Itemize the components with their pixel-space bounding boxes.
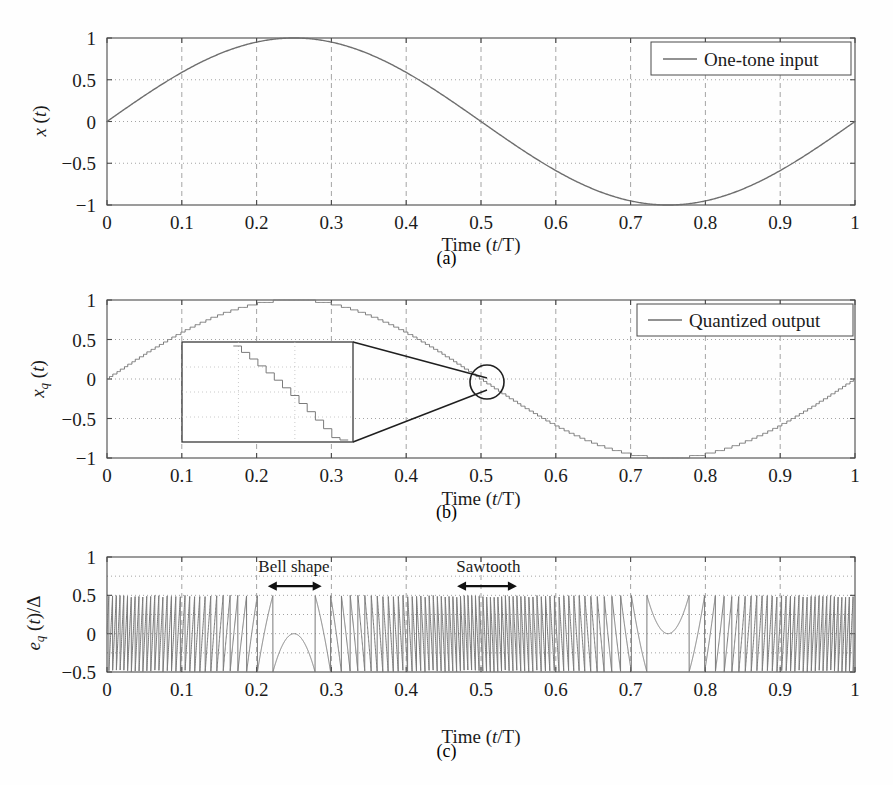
ytick-label: 0 [87,624,97,645]
panel-c-annotation-label: Bell shape [258,557,329,576]
xtick-label: 0 [102,212,112,233]
xtick-label: 0.3 [320,679,344,700]
xtick-label: 0.8 [694,465,718,486]
panel-a-y-axis-tail: ( [29,117,51,128]
xtick-label: 0.7 [619,679,643,700]
xtick-label: 0.6 [544,465,568,486]
ytick-label: −0.5 [62,153,96,174]
panel-a-xtick-labels: 00.10.20.30.40.50.60.70.80.91 [102,212,860,233]
panel-c-xtick-labels: 00.10.20.30.40.50.60.70.80.91 [102,679,860,700]
panel-b-y-axis-label: xq (t) [27,360,51,399]
ytick-label: 0.5 [72,330,96,351]
xtick-label: 0.4 [394,212,418,233]
panel-b-legend[interactable]: Quantized output [637,304,853,336]
xtick-label: 0.6 [544,212,568,233]
xtick-label: 0.6 [544,679,568,700]
xtick-label: 0 [102,465,112,486]
ytick-label: −1 [76,448,96,469]
ytick-label: −1 [76,195,96,216]
panel-b-legend-label: Quantized output [689,310,821,331]
xtick-label: 0.3 [320,465,344,486]
xtick-label: 0.9 [768,465,792,486]
ytick-label: 0 [87,112,97,133]
xtick-label: 1 [850,212,860,233]
ytick-label: 0.5 [72,585,96,606]
panel-c-ytick-labels: 10.50−0.5 [62,547,96,683]
xtick-label: 0.7 [619,465,643,486]
panel-c-annotation-label: Sawtooth [456,557,521,576]
panel-a: 10.50−0.5−1 00.10.20.30.40.50.60.70.80.9… [0,0,893,270]
panel-c-y-axis-label: eq (t)/Δ [23,595,47,650]
panel-c-annotations: Bell shapeSawtooth [258,557,521,590]
panel-b: 10.50−0.5−1 00.10.20.30.40.50.60.70.80.9… [0,262,893,534]
panel-a-ytick-labels: 10.50−0.5−1 [62,28,96,216]
xtick-label: 0.8 [694,212,718,233]
ytick-label: 1 [87,28,97,49]
xtick-label: 0.8 [694,679,718,700]
xtick-label: 0.3 [320,212,344,233]
xtick-label: 0.1 [170,212,194,233]
panel-b-callout-upper-line [353,342,487,378]
ytick-label: 1 [87,290,97,311]
xtick-label: 1 [850,679,860,700]
panel-b-inset-box [182,342,353,442]
xtick-label: 0.9 [768,212,792,233]
figure-container: 10.50−0.5−1 00.10.20.30.40.50.60.70.80.9… [0,0,893,785]
xtick-label: 0.1 [170,679,194,700]
ytick-label: 0.5 [72,70,96,91]
panel-c: Bell shapeSawtooth 10.50−0.5 00.10.20.30… [0,533,893,785]
ytick-label: −0.5 [62,409,96,430]
ytick-label: −0.5 [62,662,96,683]
xtick-label: 0 [102,679,112,700]
xtick-label: 0.5 [469,465,493,486]
panel-a-legend[interactable]: One-tone input [651,42,851,75]
xtick-label: 0.7 [619,212,643,233]
panel-a-legend-label: One-tone input [704,49,819,70]
panel-a-plot: 10.50−0.5−1 00.10.20.30.40.50.60.70.80.9… [0,0,893,270]
xtick-label: 0.1 [170,465,194,486]
panel-b-inset [182,342,353,442]
xtick-label: 0.4 [394,679,418,700]
xtick-label: 0.5 [469,212,493,233]
ytick-label: 0 [87,369,97,390]
xtick-label: 0.2 [245,465,269,486]
panel-b-ytick-labels: 10.50−0.5−1 [62,290,96,469]
panel-c-caption: (c) [437,741,457,761]
xtick-label: 0.9 [768,679,792,700]
panel-b-caption: (b) [436,502,457,522]
panel-b-callout-lower-line [353,390,487,442]
xtick-label: 0.4 [394,465,418,486]
panel-b-plot: 10.50−0.5−1 00.10.20.30.40.50.60.70.80.9… [0,262,893,534]
panel-b-xtick-labels: 00.10.20.30.40.50.60.70.80.91 [102,465,860,486]
xtick-label: 0.2 [245,212,269,233]
ytick-label: 1 [87,547,97,568]
panel-a-y-axis-label: x (t) [29,105,51,137]
xtick-label: 0.5 [469,679,493,700]
xtick-label: 1 [850,465,860,486]
xtick-label: 0.2 [245,679,269,700]
